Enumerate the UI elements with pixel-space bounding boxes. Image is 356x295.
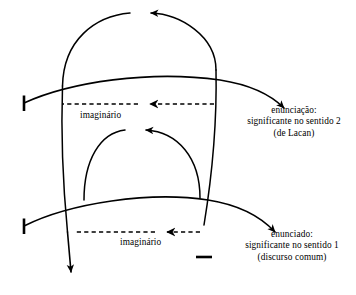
imaginario-label-lower: imaginário <box>120 237 161 247</box>
enunciado-label-line-2: significante no sentido 1 <box>228 240 356 251</box>
enunciado-label-line-1: enunciado: <box>228 229 356 240</box>
enunciado-label: enunciado: significante no sentido 1 (di… <box>228 229 356 263</box>
imaginario-label-upper: imaginário <box>80 110 121 120</box>
enunciacao-label: enunciação: significante no sentido 2 (d… <box>232 105 356 139</box>
enunciacao-label-line-3: (de Lacan) <box>232 128 356 139</box>
inner-loop <box>84 130 200 200</box>
outer-loop <box>62 13 216 232</box>
down-arrow <box>68 232 72 272</box>
enunciacao-label-line-1: enunciação: <box>232 105 356 116</box>
lacan-graph-diagram: imaginário imaginário enunciação: signif… <box>0 0 356 295</box>
enunciado-label-line-3: (discurso comum) <box>228 252 356 263</box>
enunciacao-label-line-2: significante no sentido 2 <box>232 116 356 127</box>
